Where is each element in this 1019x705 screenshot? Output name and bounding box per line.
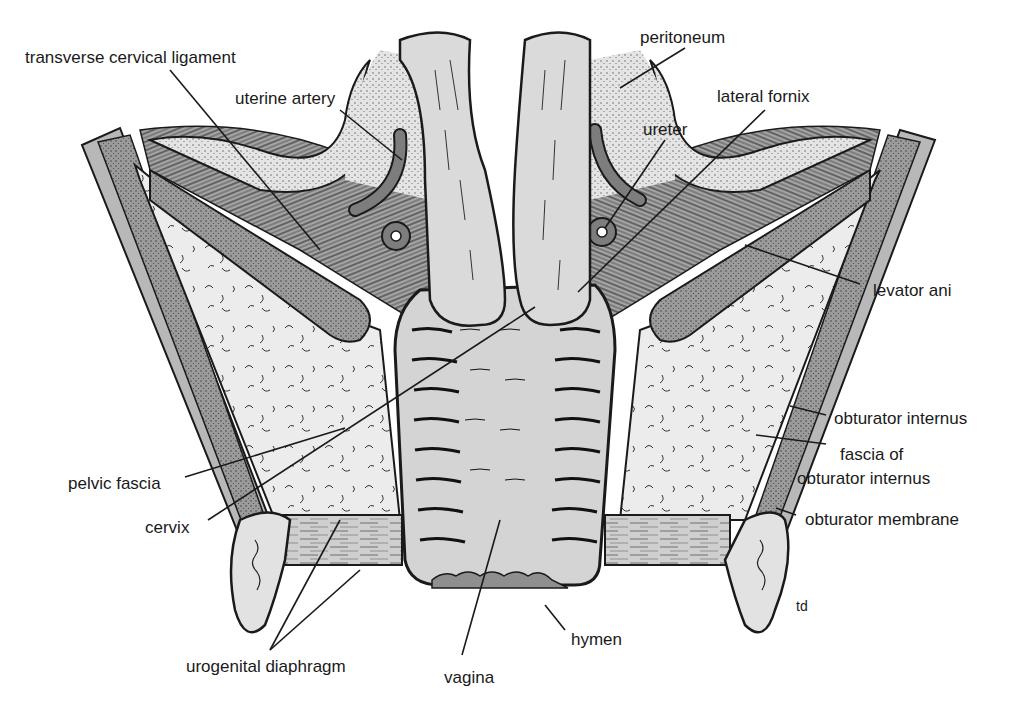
label-fascia-of-obturator-internus-line1: fascia of — [840, 445, 903, 464]
label-urogenital-diaphragm: urogenital diaphragm — [186, 657, 346, 676]
pelvis-coronal-section-illustration — [0, 0, 1019, 705]
right-pubic-ramus — [725, 513, 788, 633]
label-levator-ani: levator ani — [873, 281, 951, 300]
artist-signature: td — [796, 598, 808, 614]
label-obturator-membrane: obturator membrane — [805, 510, 959, 529]
label-uterine-artery: uterine artery — [235, 89, 335, 108]
label-pelvic-fascia: pelvic fascia — [68, 474, 161, 493]
label-vagina: vagina — [444, 668, 494, 687]
label-hymen: hymen — [571, 630, 622, 649]
label-peritoneum: peritoneum — [640, 28, 725, 47]
left-pubic-ramus — [231, 513, 290, 633]
label-lateral-fornix: lateral fornix — [717, 87, 810, 106]
left-urogenital-diaphragm — [280, 515, 402, 565]
label-ureter: ureter — [643, 120, 687, 139]
right-uterus-half — [513, 33, 590, 326]
right-ureter — [588, 218, 616, 246]
label-transverse-cervical-ligament: transverse cervical ligament — [25, 48, 236, 67]
label-cervix: cervix — [145, 518, 189, 537]
label-obturator-internus: obturator internus — [834, 409, 967, 428]
left-ureter — [382, 222, 410, 250]
right-urogenital-diaphragm — [605, 515, 730, 565]
label-fascia-of-obturator-internus-line2: obturator internus — [797, 469, 930, 488]
